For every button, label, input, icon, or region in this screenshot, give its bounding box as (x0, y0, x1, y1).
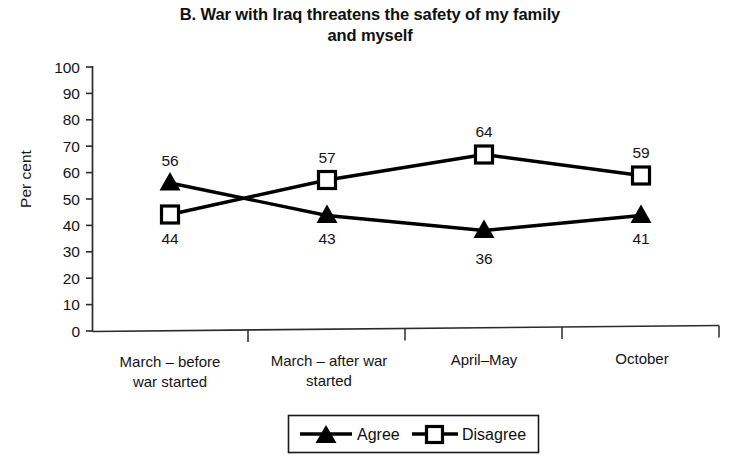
series-disagree (162, 146, 650, 223)
y-tick-100: 100 (54, 59, 93, 76)
chart-figure: B. War with Iraq threatens the safety of… (0, 0, 745, 467)
x-axis-label-1-line-1: March – after war (271, 352, 388, 369)
y-tick-50: 50 (63, 191, 93, 208)
y-axis-ticks: 100 90 80 70 60 50 (54, 59, 93, 340)
value-label-disagree-1: 57 (318, 149, 335, 166)
y-tick-10: 10 (63, 296, 93, 313)
x-axis-label-2: April–May (451, 351, 518, 368)
value-label-disagree-0: 44 (161, 230, 179, 247)
y-tick-label-100: 100 (54, 59, 80, 76)
x-axis-label-1: March – after war started (271, 352, 388, 389)
y-tick-70: 70 (63, 138, 93, 155)
x-axis-label-0-line-1: March – before (120, 353, 221, 370)
series-agree (160, 172, 652, 238)
series-disagree-marker-0 (162, 206, 179, 223)
x-axis-label-0-line-2: war started (132, 373, 207, 390)
y-tick-label-30: 30 (63, 243, 81, 260)
y-tick-40: 40 (63, 217, 93, 234)
y-tick-label-50: 50 (63, 191, 81, 208)
y-tick-label-20: 20 (63, 270, 81, 287)
series-disagree-marker-2 (476, 146, 493, 163)
legend-label-agree: Agree (357, 426, 400, 443)
chart-plot-area: 100 90 80 70 60 50 (0, 0, 745, 467)
y-tick-label-90: 90 (63, 85, 81, 102)
x-axis-label-3: October (615, 350, 668, 367)
y-tick-label-70: 70 (63, 138, 81, 155)
value-label-disagree-2: 64 (475, 123, 493, 140)
value-label-agree-0: 56 (161, 152, 178, 169)
legend-item-disagree[interactable]: Disagree (412, 426, 526, 443)
series-disagree-marker-1 (319, 172, 336, 189)
y-tick-label-10: 10 (63, 296, 81, 313)
y-tick-90: 90 (63, 85, 93, 102)
x-axis-label-1-line-2: started (306, 372, 352, 389)
value-label-disagree-3: 59 (632, 144, 649, 161)
chart-legend: Agree Disagree (289, 416, 539, 453)
legend-label-disagree: Disagree (462, 426, 526, 443)
legend-marker-open-square-icon (427, 427, 443, 443)
series-agree-line (170, 183, 641, 231)
value-label-agree-2: 36 (475, 250, 492, 267)
x-axis-label-2-line-1: April–May (451, 351, 518, 368)
value-label-agree-1: 43 (318, 230, 335, 247)
series-disagree-line (170, 155, 641, 215)
x-axis-category-labels: March – before war started March – after… (120, 350, 669, 390)
y-tick-60: 60 (63, 164, 93, 181)
y-tick-label-0: 0 (71, 323, 80, 340)
x-axis-label-3-line-1: October (615, 350, 668, 367)
series-disagree-marker-3 (633, 167, 650, 184)
y-tick-20: 20 (63, 270, 93, 287)
y-tick-label-80: 80 (63, 111, 81, 128)
value-label-agree-3: 41 (632, 230, 649, 247)
y-tick-30: 30 (63, 243, 93, 260)
y-tick-80: 80 (63, 111, 93, 128)
y-tick-label-40: 40 (63, 217, 81, 234)
y-tick-0: 0 (71, 323, 93, 340)
series-agree-marker-3 (631, 205, 652, 224)
y-tick-label-60: 60 (63, 164, 81, 181)
x-axis-label-0: March – before war started (120, 353, 221, 390)
series-agree-marker-0 (160, 172, 181, 191)
